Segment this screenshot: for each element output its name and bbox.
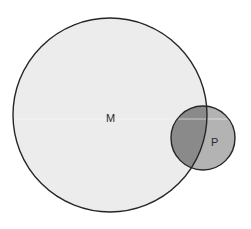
set-m-label: M	[106, 112, 115, 124]
set-p-label: P	[211, 136, 218, 148]
venn-diagram: M P	[0, 0, 251, 229]
